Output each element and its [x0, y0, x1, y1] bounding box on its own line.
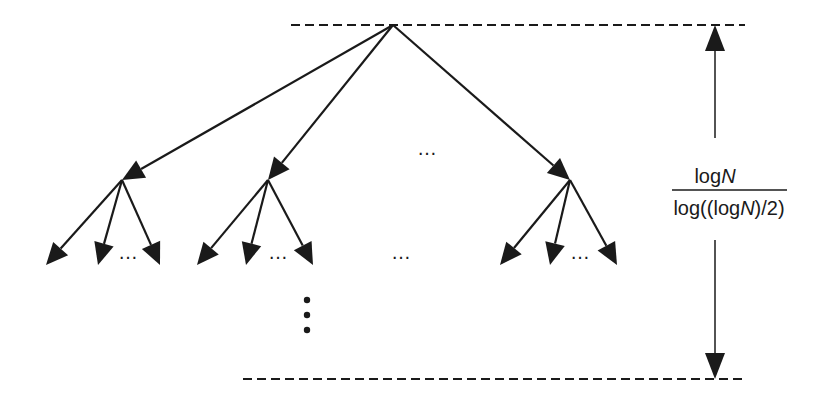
leaf-row-ellipsis: … — [391, 241, 411, 263]
leaf-ellipsis-child-left: … — [118, 241, 138, 263]
leaf-ellipsis-child-middle: … — [268, 241, 288, 263]
arrowhead-icon — [94, 241, 113, 265]
tree-edges — [46, 25, 617, 265]
children-ellipsis: … — [417, 137, 437, 159]
vertical-continuation-dots — [304, 297, 310, 333]
arrowhead-icon — [500, 242, 522, 265]
arrowhead-icon — [122, 160, 146, 180]
edge-root-to-child-middle — [268, 25, 393, 180]
arrow-up-icon — [705, 25, 725, 51]
arrowhead-icon — [242, 241, 261, 265]
arrowhead-icon — [197, 242, 219, 265]
arrowhead-icon — [545, 241, 564, 265]
arrowhead-icon — [598, 241, 617, 265]
arrowhead-icon — [547, 158, 570, 180]
height-formula: logN log((logN)/2) — [672, 165, 787, 219]
arrowhead-icon — [268, 157, 290, 180]
arrow-down-icon — [705, 353, 725, 379]
continuation-dot — [304, 327, 310, 333]
edge-child-middle-leaf-2 — [242, 180, 268, 265]
continuation-dot — [304, 312, 310, 318]
formula-denominator: log((logN)/2) — [673, 197, 784, 219]
edge-child-right-leaf-2 — [545, 180, 570, 265]
edge-root-to-child-left — [122, 25, 393, 180]
arrowhead-icon — [294, 241, 313, 265]
leaf-ellipsis-child-right: … — [570, 241, 590, 263]
continuation-dot — [304, 297, 310, 303]
tree-height-diagram: … … ……… logN log((logN)/2) — [0, 0, 823, 408]
leaf-ellipses: ……… — [118, 241, 590, 263]
formula-numerator: logN — [694, 165, 736, 187]
